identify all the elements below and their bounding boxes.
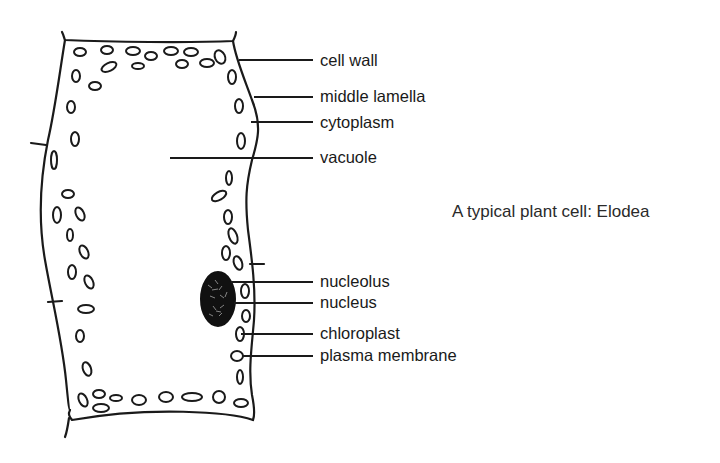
label-middle-lamella: middle lamella bbox=[320, 87, 426, 105]
label-chloroplast: chloroplast bbox=[320, 324, 400, 342]
diagram-title: A typical plant cell: Elodea bbox=[452, 202, 650, 221]
structure-labels: cell wall middle lamella cytoplasm vacuo… bbox=[320, 51, 457, 364]
label-nucleus: nucleus bbox=[320, 293, 377, 311]
nucleus-shape bbox=[201, 272, 235, 326]
chloroplasts bbox=[51, 46, 250, 412]
plant-cell-diagram: cell wall middle lamella cytoplasm vacuo… bbox=[0, 0, 720, 463]
label-vacuole: vacuole bbox=[320, 148, 377, 166]
label-cell-wall: cell wall bbox=[320, 51, 378, 69]
label-plasma-membrane: plasma membrane bbox=[320, 346, 457, 364]
leader-lines bbox=[170, 60, 313, 356]
label-nucleolus: nucleolus bbox=[320, 272, 390, 290]
label-cytoplasm: cytoplasm bbox=[320, 113, 394, 131]
